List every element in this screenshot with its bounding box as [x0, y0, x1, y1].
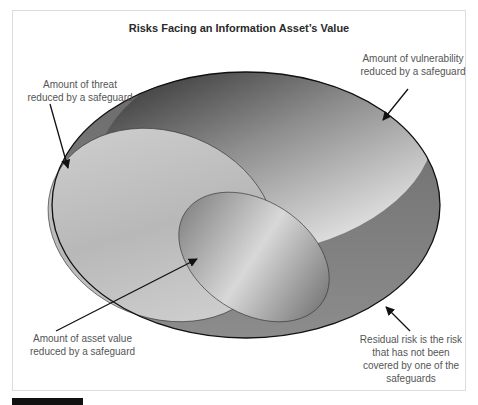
residual-label-line-3: covered by one of the — [350, 359, 472, 372]
threat-label: Amount of threat reduced by a safeguard — [22, 78, 138, 104]
asset-value-label: Amount of asset value reduced by a safeg… — [20, 332, 145, 358]
threat-label-line-1: Amount of threat — [22, 78, 138, 91]
vulnerability-label: Amount of vulnerability reduced by a saf… — [355, 52, 471, 78]
residual-label-line-4: safeguards — [350, 372, 472, 385]
residual-label-line-1: Residual risk is the risk — [350, 333, 472, 346]
vulnerability-label-line-1: Amount of vulnerability — [355, 52, 471, 65]
residual-arrow-icon — [386, 307, 410, 331]
threat-label-line-2: reduced by a safeguard — [22, 91, 138, 104]
figure-caption-bar — [12, 398, 83, 405]
vulnerability-arrow-icon — [383, 89, 408, 120]
threat-arrow-icon — [50, 104, 68, 168]
asset-value-label-line-1: Amount of asset value — [20, 332, 145, 345]
asset-value-label-line-2: reduced by a safeguard — [20, 345, 145, 358]
residual-risk-label: Residual risk is the risk that has not b… — [350, 333, 472, 385]
vulnerability-label-line-2: reduced by a safeguard — [355, 65, 471, 78]
residual-label-line-2: that has not been — [350, 346, 472, 359]
